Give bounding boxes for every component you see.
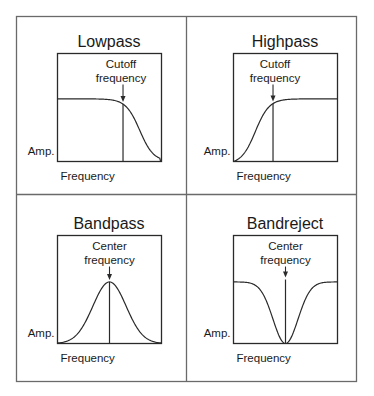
annotation-line: frequency [260, 254, 311, 266]
x-axis-label: Frequency [237, 170, 292, 182]
panel-title: Bandpass [73, 215, 144, 232]
x-axis-label: Frequency [61, 170, 116, 182]
annotation-line: Center [268, 240, 303, 252]
annotation-line: Cutoff [260, 58, 291, 70]
y-axis-label: Amp. [204, 145, 231, 157]
y-axis-label: Amp. [28, 327, 55, 339]
annotation-line: frequency [96, 72, 147, 84]
annotation-line: Cutoff [106, 58, 137, 70]
annotation-line: frequency [84, 254, 135, 266]
annotation-line: frequency [250, 72, 301, 84]
panel-title: Bandreject [247, 215, 324, 232]
y-axis-label: Amp. [28, 145, 55, 157]
panel-title: Highpass [252, 33, 319, 50]
x-axis-label: Frequency [237, 352, 292, 364]
panel-title: Lowpass [77, 33, 140, 50]
x-axis-label: Frequency [61, 352, 116, 364]
y-axis-label: Amp. [204, 327, 231, 339]
filter-types-figure: LowpassCutofffrequencyAmp.FrequencyHighp… [0, 0, 374, 396]
annotation-line: Center [92, 240, 127, 252]
